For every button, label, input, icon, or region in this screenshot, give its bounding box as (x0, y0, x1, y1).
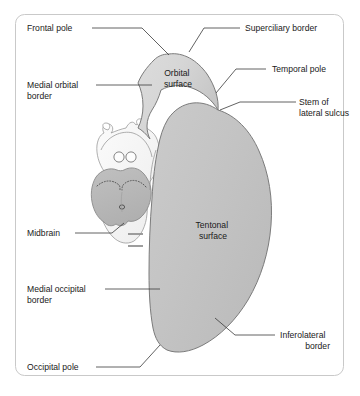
label-midbrain: Midbrain (27, 228, 60, 238)
label-superciliary-border: Superciliary border (245, 23, 317, 33)
anatomy-diagram-canvas: Orbital surface Tentonal surface Frontal… (0, 0, 360, 396)
region-label-orbital-surface: Orbital surface (164, 68, 192, 89)
label-frontal-pole: Frontal pole (27, 23, 73, 33)
region-label-tentonal-surface: Tentonal surface (196, 220, 231, 241)
mammillary-body-left (114, 152, 124, 162)
label-occipital-pole: Occipital pole (27, 362, 79, 372)
label-temporal-pole: Temporal pole (272, 64, 326, 74)
anatomy-figure: Orbital surface Tentonal surface Frontal… (0, 0, 360, 396)
mammillary-body-right (126, 152, 136, 162)
